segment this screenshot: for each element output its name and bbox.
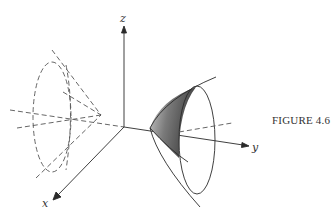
figure-caption: FIGURE 4.6 bbox=[272, 114, 330, 126]
dashed-cone-generator-top bbox=[52, 50, 101, 115]
solid-surface bbox=[150, 77, 232, 207]
figure: z x y FIGURE 4.6 bbox=[0, 0, 335, 220]
dashed-cone-base-ellipse bbox=[33, 62, 71, 172]
surface-dashed-axis bbox=[179, 123, 232, 132]
z-axis-label: z bbox=[120, 13, 126, 24]
y-axis bbox=[124, 127, 243, 145]
dashed-neg-y-axis-upper bbox=[10, 110, 124, 127]
dashed-cone-inner-line bbox=[63, 92, 101, 115]
axes bbox=[53, 26, 249, 200]
dashed-cone bbox=[10, 50, 124, 178]
x-axis-label: x bbox=[42, 198, 48, 209]
y-axis-label: y bbox=[252, 142, 258, 153]
x-axis bbox=[58, 127, 124, 195]
z-axis-arrowhead bbox=[122, 26, 127, 33]
y-axis-arrowhead bbox=[242, 143, 250, 148]
figure-graphic bbox=[0, 0, 335, 220]
